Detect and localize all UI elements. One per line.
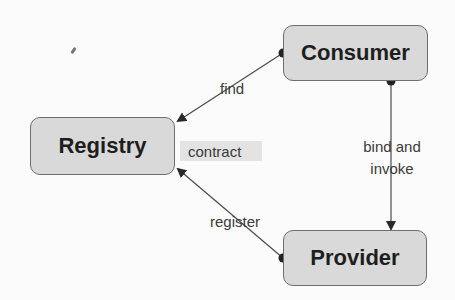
edge-register-label: register (210, 214, 260, 229)
soa-diagram: Consumer Registry Provider find register… (0, 0, 455, 300)
node-provider-label: Provider (310, 245, 399, 271)
contract-annotation: contract (180, 141, 262, 161)
node-registry: Registry (30, 117, 175, 175)
edge-bind-invoke-label-line2: invoke (356, 158, 428, 180)
edge-bind-invoke-label: bind and invoke (356, 136, 428, 180)
edge-find-label: find (220, 81, 244, 96)
node-provider: Provider (283, 230, 427, 286)
node-consumer-label: Consumer (301, 40, 410, 66)
node-consumer: Consumer (283, 25, 428, 81)
node-registry-label: Registry (58, 133, 146, 159)
edge-bind-invoke-label-line1: bind and (356, 136, 428, 158)
